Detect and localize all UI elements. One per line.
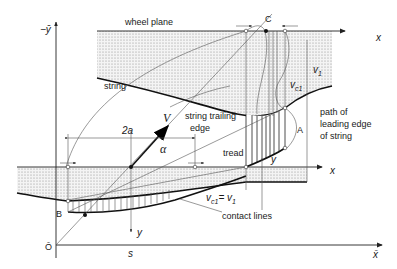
neg-y-bar-label: −ȳ: [40, 24, 52, 35]
path-leading-edge-label-3: of string: [320, 131, 352, 141]
lower-wheel-plane-region: [17, 167, 307, 201]
point-a-label: A: [297, 125, 303, 135]
point-b-label: B: [56, 209, 62, 219]
x-bar-label: x̄: [372, 249, 379, 260]
path-leading-edge: [285, 108, 297, 148]
velocity-v-label: V: [163, 111, 172, 125]
x-mid-label: x: [329, 165, 336, 176]
path-leading-edge-label-1: path of: [320, 107, 348, 117]
point-c-label: C: [265, 14, 272, 24]
string-trailing-edge-label-2: edge: [190, 123, 210, 133]
string-trailing-edge-label-1: string trailing: [185, 111, 236, 121]
alpha-label: α: [160, 142, 167, 156]
string-tire-diagram: −ȳ wheel plane string C x v1 vc1 path o…: [0, 0, 397, 269]
y-right-label: y: [270, 154, 277, 165]
point-c-dot: [264, 29, 268, 33]
s-label: s: [128, 248, 133, 259]
x-top-label: x: [375, 32, 382, 43]
two-a-label: 2a: [121, 125, 134, 136]
upper-wheel-plane-region: [97, 31, 332, 116]
wheel-plane-label: wheel plane: [124, 17, 173, 27]
y-left-label: y: [136, 227, 143, 238]
vc1-eq-v1-label: vc1= v1: [206, 192, 236, 205]
tread-label: tread: [223, 148, 244, 158]
origin-label: Ō: [45, 242, 52, 252]
path-leading-edge-label-2: leading edge: [320, 119, 372, 129]
string-label: string: [104, 81, 126, 91]
contact-lines-label: contact lines: [222, 211, 273, 221]
